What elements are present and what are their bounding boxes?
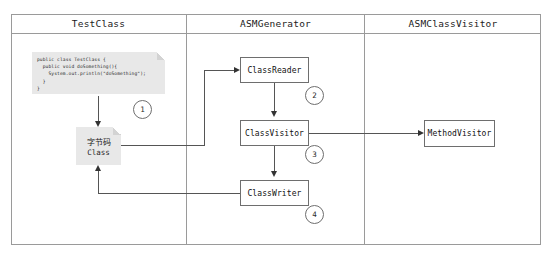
arrowhead-down-classvisitor: [271, 111, 277, 117]
code-line: }: [37, 85, 160, 92]
node-classwriter[interactable]: ClassWriter: [240, 180, 309, 206]
step-badge-3: 3: [305, 145, 324, 164]
diagram-canvas: TestClass ASMGenerator ASMClassVisitor p…: [0, 0, 552, 261]
node-methodvisitor[interactable]: MethodVisitor: [424, 120, 495, 147]
note-fold-icon: [157, 52, 165, 60]
step-badge-1: 1: [133, 100, 152, 119]
lane-header-asmclassvisitor: ASMClassVisitor: [364, 14, 541, 33]
connector-bytecode-to-classreader-v: [204, 70, 205, 146]
connector-classvisitor-to-classwriter: [274, 146, 275, 171]
code-line: }: [37, 78, 160, 85]
step-badge-2: 2: [305, 86, 324, 105]
bytecode-label-class: Class: [87, 148, 110, 157]
lane-divider-2: [364, 34, 365, 245]
arrowhead-down-classwriter: [271, 171, 277, 177]
bytecode-class-note: 字节码 Class: [76, 127, 121, 165]
connector-bytecode-to-classreader-h2: [204, 70, 234, 71]
lane-divider-1: [186, 34, 187, 245]
connector-source-to-bytecode: [98, 96, 99, 121]
code-line: System.out.println("doSomething");: [37, 70, 160, 77]
connector-classwriter-to-bytecode-v: [98, 171, 99, 194]
arrowhead-down-bytecode: [95, 121, 101, 127]
arrowhead-up-bytecode: [95, 165, 101, 171]
node-classreader[interactable]: ClassReader: [240, 57, 309, 83]
java-source-note: public class TestClass { public void doS…: [32, 52, 165, 94]
bytecode-label-cn: 字节码: [87, 136, 111, 147]
arrowhead-right-classreader: [234, 67, 240, 73]
code-line: public void doSomething(){: [37, 63, 160, 70]
connector-classwriter-to-bytecode-h: [98, 193, 240, 194]
connector-classreader-to-classvisitor: [274, 83, 275, 111]
lane-header-asmgenerator: ASMGenerator: [186, 14, 364, 33]
code-line: public class TestClass {: [37, 56, 160, 63]
step-badge-4: 4: [305, 205, 324, 224]
connector-bytecode-to-classreader-h1: [121, 145, 204, 146]
swimlane-header-row: TestClass ASMGenerator ASMClassVisitor: [11, 14, 541, 34]
node-classvisitor[interactable]: ClassVisitor: [240, 120, 309, 146]
arrowhead-right-methodvisitor: [418, 130, 424, 136]
note-fold-icon: [113, 127, 121, 135]
lane-header-testclass: TestClass: [11, 14, 186, 33]
connector-classvisitor-to-methodvisitor: [309, 133, 418, 134]
